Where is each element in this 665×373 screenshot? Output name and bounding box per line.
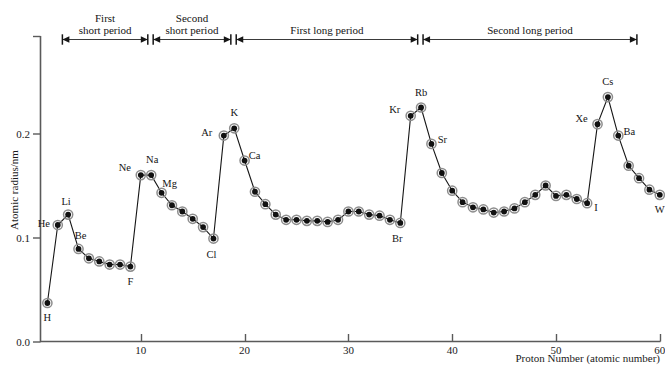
data-point (44, 300, 50, 306)
element-symbol-i: I (594, 202, 598, 213)
element-symbol-ar: Ar (201, 127, 213, 138)
data-point (356, 209, 362, 215)
data-point (86, 255, 92, 261)
period-label: short period (79, 24, 132, 36)
data-point (377, 213, 383, 219)
data-point (231, 125, 237, 131)
data-point (397, 220, 403, 226)
data-point (615, 133, 621, 139)
data-point (480, 207, 486, 213)
x-tick-label: 40 (447, 344, 459, 356)
data-point (522, 199, 528, 205)
data-point (584, 200, 590, 206)
element-symbol-cl: Cl (207, 249, 217, 260)
element-symbol-ca: Ca (249, 150, 261, 161)
x-tick-label: 20 (239, 344, 251, 356)
data-point (532, 192, 538, 198)
data-point (262, 201, 268, 207)
data-point (200, 224, 206, 230)
period-label: Second long period (487, 24, 573, 36)
data-point (325, 219, 331, 225)
data-point (179, 209, 185, 215)
element-symbol-na: Na (146, 154, 159, 165)
data-polyline (47, 97, 659, 303)
data-point (107, 262, 113, 268)
data-point (128, 264, 134, 270)
element-symbol-mg: Mg (162, 178, 177, 189)
data-point (460, 199, 466, 205)
data-point (221, 133, 227, 139)
data-point (169, 202, 175, 208)
data-point (211, 236, 217, 242)
data-point (491, 210, 497, 216)
period-label: short period (166, 24, 219, 36)
element-symbol-w: W (655, 204, 665, 215)
element-symbol-sr: Sr (438, 134, 448, 145)
element-symbol-kr: Kr (389, 104, 401, 115)
data-point (605, 94, 611, 100)
element-symbol-he: He (38, 218, 51, 229)
data-point (636, 175, 642, 181)
data-point (470, 204, 476, 210)
data-point (55, 222, 61, 228)
data-point (366, 212, 372, 218)
atomic-radius-chart: Firstshort periodSecondshort periodFirst… (0, 0, 665, 373)
y-tick-label: 0.2 (16, 128, 30, 140)
data-point (190, 216, 196, 222)
data-point (429, 141, 435, 147)
figure-container: Firstshort periodSecondshort periodFirst… (0, 0, 665, 373)
data-point (96, 259, 102, 265)
period-bracket-group (62, 34, 637, 44)
data-point (117, 262, 123, 268)
x-tick-label: 30 (343, 344, 355, 356)
y-tick-label: 0.1 (16, 232, 30, 244)
data-point (335, 217, 341, 223)
element-symbol-label-group: HHeLiBeFNeNaMgClArKCaBrKrRbSrIXeCsBaW (38, 76, 665, 323)
data-point (76, 246, 82, 252)
data-point (387, 217, 393, 223)
element-symbol-h: H (44, 312, 52, 323)
x-tick-label: 10 (135, 344, 147, 356)
data-point (273, 212, 279, 218)
data-point (574, 196, 580, 202)
data-point (595, 121, 601, 127)
data-point (242, 158, 248, 164)
element-symbol-ne: Ne (119, 162, 132, 173)
element-symbol-br: Br (392, 233, 403, 244)
element-symbol-li: Li (61, 196, 70, 207)
data-point (553, 193, 559, 199)
data-point (283, 217, 289, 223)
axis-lines (41, 36, 661, 342)
element-symbol-ba: Ba (623, 126, 635, 137)
data-point (252, 189, 258, 195)
axes-group (33, 36, 661, 342)
element-symbol-cs: Cs (602, 76, 613, 87)
data-point (65, 212, 71, 218)
y-tick-label: 0.0 (16, 336, 30, 348)
period-label: First (95, 12, 115, 24)
data-point (314, 218, 320, 224)
data-point (304, 218, 310, 224)
data-point (626, 163, 632, 169)
data-point (439, 170, 445, 176)
data-point (543, 183, 549, 189)
element-symbol-xe: Xe (575, 113, 588, 124)
y-axis-title: Atomic radius/nm (8, 150, 20, 230)
data-point (294, 217, 300, 223)
element-symbol-be: Be (75, 230, 87, 241)
data-point (563, 192, 569, 198)
data-point (647, 187, 653, 193)
data-point (501, 209, 507, 215)
data-point-group (43, 93, 665, 308)
element-symbol-f: F (127, 276, 133, 287)
element-symbol-k: K (230, 107, 238, 118)
period-label-group: Firstshort periodSecondshort periodFirst… (79, 12, 574, 36)
period-label: First long period (290, 24, 364, 36)
period-label: Second (176, 12, 209, 24)
x-axis-title: Proton Number (atomic number) (516, 352, 661, 365)
element-symbol-rb: Rb (415, 87, 427, 98)
data-point (346, 209, 352, 215)
data-point (159, 190, 165, 196)
data-point (418, 105, 424, 111)
data-point (512, 205, 518, 211)
